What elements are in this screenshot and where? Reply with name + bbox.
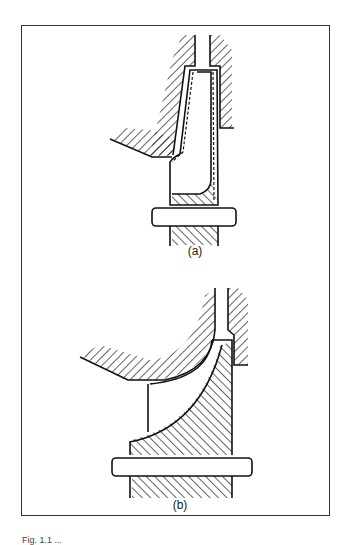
panel-a-label: (a)	[175, 244, 215, 258]
panel-b	[80, 288, 252, 498]
figure-caption: Fig. 1.1 ...	[22, 535, 62, 545]
panel-b-label: (b)	[160, 498, 200, 512]
panel-a	[110, 35, 236, 246]
